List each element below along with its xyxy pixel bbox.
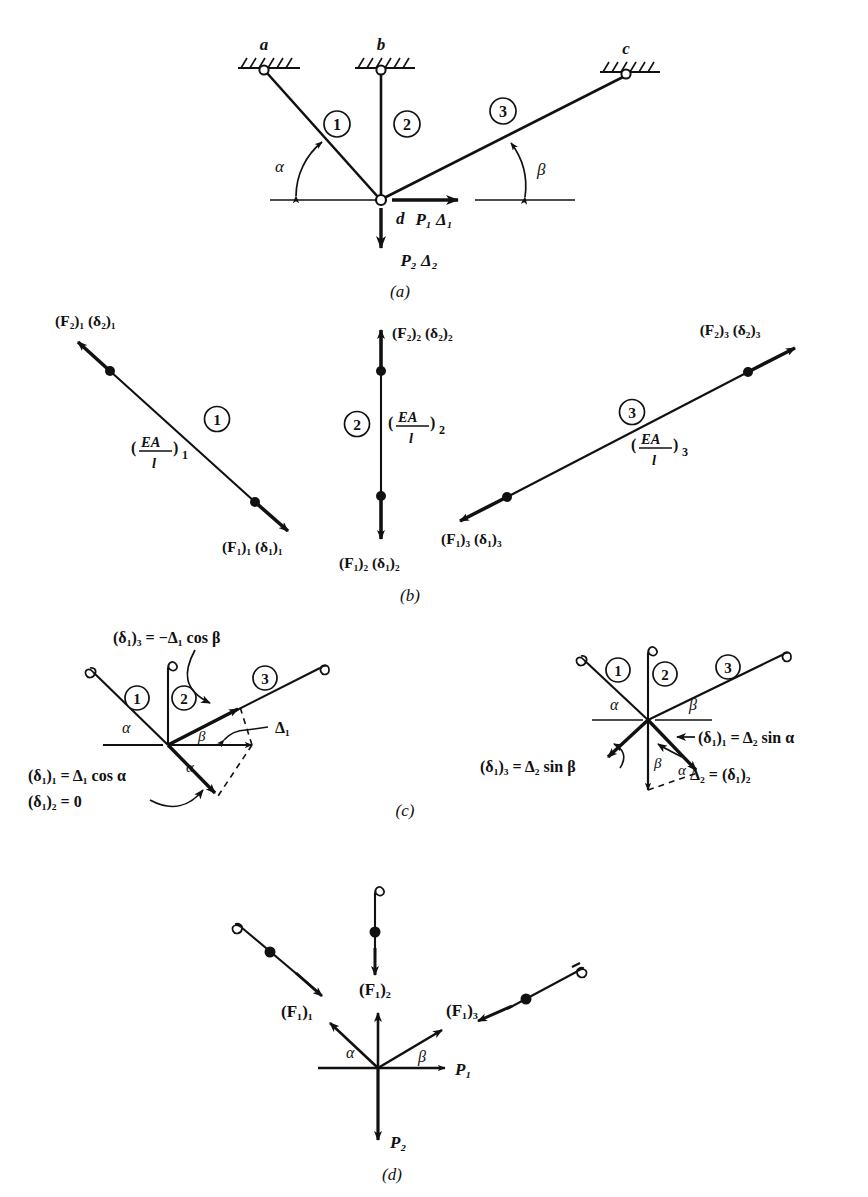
member-2-number: 2 <box>394 111 420 137</box>
element-3-stiffness-numerator: EA <box>640 431 661 447</box>
element-1-node-2 <box>105 366 115 376</box>
element-3-number-text: 3 <box>628 404 636 421</box>
c-left-angle-alpha-top: α <box>122 719 131 736</box>
element-1-end2-label: (F₂)₁ (δ₂)₁ <box>55 312 116 330</box>
element-3-end1-label: (F₁)₃ (δ₁)₃ <box>441 530 502 548</box>
element-3-number: 3 <box>620 400 645 425</box>
element-3-node-2 <box>743 367 753 377</box>
member-1-number-text: 1 <box>333 116 341 133</box>
c-left-eq-delta1-3: (δ₁)₃ = −Δ₁ cos β <box>113 629 220 647</box>
panel-b-caption: (b) <box>400 586 420 605</box>
c-right-angle-alpha-top: α <box>610 696 619 713</box>
load-p1-label: P₁ Δ₁ <box>414 210 452 229</box>
member-3-number: 3 <box>490 98 516 124</box>
c-right-member-1-number: 1 <box>606 658 630 682</box>
element-2-end2-label: (F₂)₂ (δ₂)₂ <box>392 324 453 342</box>
c-left-member-2-number-text: 2 <box>180 691 188 707</box>
d-member-1-node <box>265 947 276 958</box>
d-force-2-label: (F₁)₂ <box>359 980 391 999</box>
c-right-member-3-number: 3 <box>716 655 740 679</box>
c-left-eq-delta1-2: (δ₁)₂ = 0 <box>28 793 82 811</box>
element-1-node-1 <box>250 497 260 507</box>
element-2-number: 2 <box>345 412 370 437</box>
d-angle-beta: β <box>417 1048 426 1066</box>
element-2-stiffness-subscript: 2 <box>439 423 445 437</box>
element-3-node-1 <box>502 492 512 502</box>
c-right-member-2-number-text: 2 <box>661 667 669 683</box>
d-load-p1-label: P₁ <box>454 1060 471 1079</box>
element-3-stiffness-denominator: l <box>652 452 656 468</box>
element-1-stiffness-numerator: EA <box>140 434 161 450</box>
c-left-angle-beta: β <box>197 728 206 744</box>
element-1-number-text: 1 <box>213 411 221 428</box>
c-right-angle-beta-top: β <box>688 696 697 714</box>
element-1-number: 1 <box>205 407 230 432</box>
element-2-end1-label: (F₁)₂ (δ₁)₂ <box>339 554 400 572</box>
panel-c-caption: (c) <box>396 801 415 820</box>
panel-d-caption: (d) <box>382 1165 402 1184</box>
joint-d-label: d <box>396 209 405 228</box>
d-member-2-node <box>370 927 381 938</box>
d-load-p2-label: P₂ <box>389 1133 406 1152</box>
c-right-eq-delta1-1: (δ₁)₁ = Δ₂ sin α <box>698 729 794 747</box>
element-2-stiffness-close: ) <box>430 414 435 432</box>
element-1-stiffness-open: ( <box>131 439 136 457</box>
element-2-node-2 <box>376 366 386 376</box>
angle-alpha-a-label: α <box>275 157 285 176</box>
c-left-member-1-number-text: 1 <box>133 691 141 707</box>
element-2-stiffness-numerator: EA <box>397 409 418 425</box>
member-3-number-text: 3 <box>499 103 507 120</box>
support-b-label: b <box>377 35 386 54</box>
c-right-delta2-label: Δ₂ = (δ₁)₂ <box>690 766 751 784</box>
c-left-delta1-label: Δ₁ <box>275 719 290 736</box>
d-member-3-node <box>521 994 532 1005</box>
angle-beta-a-label: β <box>536 160 546 179</box>
page-background <box>0 0 868 1197</box>
c-right-member-2-number: 2 <box>653 662 677 686</box>
panel-a-caption: (a) <box>390 282 410 301</box>
c-right-angle-beta-inner: β <box>653 755 662 771</box>
d-angle-alpha: α <box>346 1044 355 1061</box>
member-2-number-text: 2 <box>403 116 411 133</box>
c-left-eq-delta1-1: (δ₁)₁ = Δ₁ cos α <box>28 767 126 785</box>
c-left-member-3-number: 3 <box>253 666 277 690</box>
element-1-stiffness-denominator: l <box>152 455 156 471</box>
element-1-stiffness-close: ) <box>173 439 178 457</box>
element-2-number-text: 2 <box>353 416 361 433</box>
c-right-member-1-number-text: 1 <box>614 663 622 679</box>
element-3-stiffness-subscript: 3 <box>682 445 688 459</box>
joint-d <box>376 195 386 205</box>
element-3-end2-label: (F₂)₃ (δ₂)₃ <box>700 321 761 339</box>
d-force-3-label: (F₁)₃ <box>446 1001 478 1020</box>
c-left-member-1-number: 1 <box>125 686 149 710</box>
element-1-end1-label: (F₁)₁ (δ₁)₁ <box>222 538 283 556</box>
support-a-label: a <box>260 35 269 54</box>
c-right-eq-delta1-3: (δ₁)₃ = Δ₂ sin β <box>480 758 576 776</box>
figure-container: a b c <box>0 0 868 1197</box>
d-force-1-label: (F₁)₁ <box>281 1002 313 1021</box>
c-left-member-3-number-text: 3 <box>261 671 269 687</box>
load-p2-label: P₂ Δ₂ <box>399 251 437 270</box>
element-2-stiffness-open: ( <box>388 414 393 432</box>
c-right-member-3-number-text: 3 <box>724 660 732 676</box>
member-1-number: 1 <box>324 111 350 137</box>
element-2-node-1 <box>376 491 386 501</box>
element-2-stiffness-denominator: l <box>409 430 413 446</box>
support-c-label: c <box>622 39 630 58</box>
c-left-angle-alpha-inner: α <box>186 759 195 775</box>
c-right-angle-alpha-inner: α <box>678 762 687 778</box>
element-1-stiffness-subscript: 1 <box>182 448 188 462</box>
element-3-stiffness-close: ) <box>673 436 678 454</box>
element-3-stiffness-open: ( <box>631 436 636 454</box>
